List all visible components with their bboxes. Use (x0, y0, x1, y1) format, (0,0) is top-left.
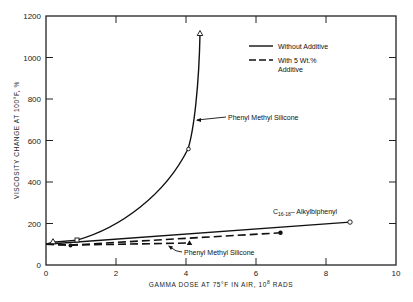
y-tick-400: 400 (28, 178, 42, 187)
marker-open-triangle (50, 239, 56, 244)
x-tick-4: 4 (184, 269, 189, 278)
marker-filled-triangle (187, 240, 193, 245)
y-tick-0: 0 (37, 261, 42, 270)
marker-open-triangle-top (197, 31, 203, 36)
marker-filled-circle-alkyl (278, 231, 282, 235)
legend-dashed-label-2: Additive (278, 66, 303, 73)
x-tick-2: 2 (114, 269, 119, 278)
marker-open-circle (187, 147, 191, 151)
y-tick-200: 200 (28, 220, 42, 229)
legend-dashed-label-1: With 5 Wt.% (278, 57, 317, 64)
x-tick-10: 10 (392, 269, 401, 278)
x-ticks (116, 16, 326, 265)
svg-text:Phenyl Methyl Silicone: Phenyl Methyl Silicone (184, 249, 255, 257)
y-tick-600: 600 (28, 137, 42, 146)
series-pms-without-additive (46, 34, 200, 244)
y-tick-1000: 1000 (23, 54, 41, 63)
marker-open-circle-alkyl (348, 220, 352, 224)
series-alkyl-without-additive (46, 222, 350, 244)
x-tick-6: 6 (254, 269, 259, 278)
y-axis-title: VISCOSITY CHANGE AT 100°F, % (13, 81, 20, 199)
x-tick-8: 8 (324, 269, 329, 278)
y-tick-1200: 1200 (23, 12, 41, 21)
svg-text:Phenyl Methyl Silicone: Phenyl Methyl Silicone (228, 114, 299, 122)
y-ticks (46, 58, 396, 224)
x-axis-title: GAMMA DOSE AT 75°F IN AIR, 108 RADS (149, 279, 293, 288)
svg-text:C16-18– Alkylbiphenyl: C16-18– Alkylbiphenyl (273, 208, 338, 217)
annotation-pms-lower: Phenyl Methyl Silicone (168, 246, 255, 257)
legend-solid-label: Without Additive (278, 43, 328, 50)
marker-filled-circle (69, 244, 73, 248)
marker-open-square (75, 238, 79, 242)
plot-frame (46, 16, 396, 265)
viscosity-chart: 0 2 4 6 8 10 0 200 400 600 800 1000 1200… (0, 0, 413, 302)
legend: Without Additive With 5 Wt.% Additive (249, 43, 328, 73)
annotation-pms-upper: Phenyl Methyl Silicone (196, 114, 299, 123)
x-tick-0: 0 (44, 269, 49, 278)
annotation-alkylbiphenyl: C16-18– Alkylbiphenyl (273, 208, 338, 217)
y-tick-800: 800 (28, 95, 42, 104)
